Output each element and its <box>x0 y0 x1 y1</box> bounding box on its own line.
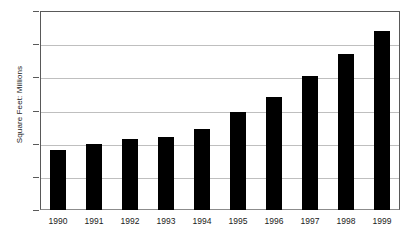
bar-1998 <box>338 54 354 210</box>
bar-slot <box>148 11 184 210</box>
x-tick-label-1991: 1991 <box>85 216 104 226</box>
y-axis-title: Square Feet: Millions <box>15 45 24 165</box>
x-tick-label-1996: 1996 <box>265 216 284 226</box>
bar-1994 <box>194 129 210 210</box>
x-tick-label-1998: 1998 <box>337 216 356 226</box>
y-tick-mark-5.8 <box>33 77 39 78</box>
bar-1996 <box>266 97 282 210</box>
x-axis-tick-group: 1990199119921993199419951996199719981999 <box>40 216 400 236</box>
x-tick-label-1993: 1993 <box>157 216 176 226</box>
bar-1995 <box>230 112 246 210</box>
x-tick-label-1995: 1995 <box>229 216 248 226</box>
bar-chart: Square Feet: Millions 5.05.25.45.65.86.0… <box>0 0 412 240</box>
y-tick-mark-6.0 <box>33 44 39 45</box>
bar-slot <box>328 11 364 210</box>
bar-slot <box>40 11 76 210</box>
bar-slot <box>292 11 328 210</box>
bar-1991 <box>86 144 102 210</box>
x-tick-label-1994: 1994 <box>193 216 212 226</box>
bar-slot <box>256 11 292 210</box>
bar-1990 <box>50 150 66 210</box>
y-tick-mark-5.2 <box>33 177 39 178</box>
bar-group <box>40 11 400 210</box>
y-tick-mark-5.6 <box>33 111 39 112</box>
y-tick-mark-5.4 <box>33 144 39 145</box>
bar-slot <box>112 11 148 210</box>
bar-slot <box>184 11 220 210</box>
bar-slot <box>220 11 256 210</box>
bar-1997 <box>302 76 318 210</box>
bar-1999 <box>374 31 390 210</box>
bar-1992 <box>122 139 138 210</box>
bar-1993 <box>158 137 174 210</box>
bar-slot <box>76 11 112 210</box>
bar-slot <box>364 11 400 210</box>
y-tick-mark-6.2 <box>33 11 39 12</box>
x-tick-label-1992: 1992 <box>121 216 140 226</box>
y-tick-mark-5.0 <box>33 210 39 211</box>
x-tick-label-1999: 1999 <box>373 216 392 226</box>
x-tick-label-1997: 1997 <box>301 216 320 226</box>
x-tick-label-1990: 1990 <box>49 216 68 226</box>
